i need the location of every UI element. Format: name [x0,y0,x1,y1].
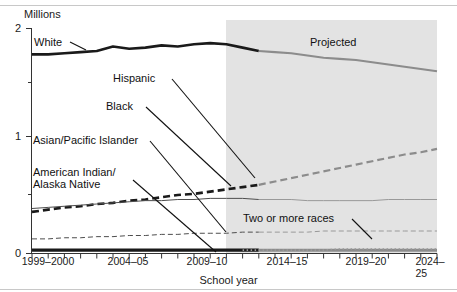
label-black: Black [106,100,133,112]
leader-black [146,107,231,186]
leader-white [70,42,86,50]
label-asian-pacific-islander: Asian/Pacific Islander [33,134,138,146]
chart-canvas [0,0,457,292]
chart-figure: Millions School year 2 1 0 1999–2000 200… [0,0,457,292]
series-line-asian-pacific-islander-historical [32,232,259,239]
label-white: White [34,36,62,48]
leader-american-indian [133,180,216,252]
label-projected: Projected [310,36,356,48]
leader-asian-pacific-islander [150,141,226,232]
series-line-white-historical [32,43,259,54]
label-american-indian-line1: American Indian/ [33,166,116,178]
x-axis-ticks [32,254,437,259]
label-american-indian-alaska-native: American Indian/ Alaska Native [33,167,116,190]
label-two-or-more-races: Two or more races [243,212,334,224]
label-american-indian-line2: Alaska Native [33,178,100,190]
y-axis-ticks [26,29,31,254]
label-hispanic: Hispanic [113,72,155,84]
